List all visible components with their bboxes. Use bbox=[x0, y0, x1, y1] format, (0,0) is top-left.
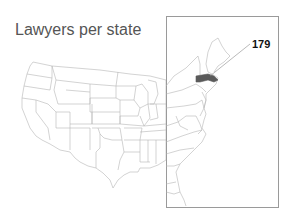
massachusetts-highlight bbox=[196, 74, 218, 82]
massachusetts-value-label: 179 bbox=[252, 38, 270, 50]
leader-line bbox=[210, 44, 250, 76]
